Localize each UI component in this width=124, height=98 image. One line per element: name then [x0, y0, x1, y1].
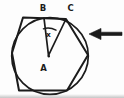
geometry-diagram: B C A x — [0, 0, 124, 98]
label-angle-x: x — [46, 30, 51, 39]
diagram-svg: B C A x — [0, 0, 124, 98]
label-point-c: C — [67, 3, 73, 13]
label-point-b: B — [40, 3, 46, 13]
label-point-a: A — [40, 63, 47, 73]
center-point-dot — [48, 55, 50, 57]
left-arrow-icon — [89, 28, 122, 39]
radius-line-ac — [49, 20, 66, 55]
